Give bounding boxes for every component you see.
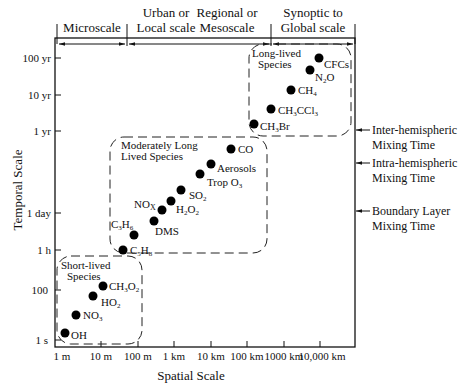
point-so2 (177, 186, 186, 195)
y-axis: 100 yr 10 yr 1 yr 1 day 1 h 100 1 s Temp… (10, 52, 61, 346)
boundary-layer-line2: Mixing Time (372, 219, 435, 233)
label-oh: OH (71, 329, 87, 341)
x-tick-10000km: 10,000 km (298, 350, 346, 362)
label-ch3ccl3: CH3CCl3 (278, 104, 319, 118)
long-lived-title-line2: Species (258, 58, 292, 70)
y-axis-label: Temporal Scale (10, 149, 25, 230)
intra-hemispheric-line2: Mixing Time (372, 171, 435, 185)
mixing-annotations: Inter-hemispheric Mixing Time Intra-hemi… (356, 123, 457, 233)
band-microscale: Microscale (63, 20, 121, 35)
point-ch3ccl3 (267, 105, 276, 114)
label-n2o: N2O (315, 71, 334, 85)
point-co (227, 145, 236, 154)
point-oh (61, 329, 70, 338)
point-trop-o3 (196, 170, 205, 179)
band-regional-line2: Mesoscale (200, 20, 255, 35)
point-ch4 (287, 86, 296, 95)
point-no3 (72, 311, 81, 320)
short-lived-points: CH3O2 HO2 NO3 OH (61, 280, 140, 341)
point-c5h8 (119, 246, 128, 255)
x-tick-1km: 1 km (163, 350, 186, 362)
label-trop-o3: Trop O3 (207, 176, 243, 190)
label-no3: NO3 (83, 309, 103, 323)
label-c3h6: C3H6 (111, 218, 134, 232)
band-urban-line1: Urban or (143, 5, 190, 20)
label-ho2: HO2 (101, 296, 121, 310)
inter-hemispheric-line1: Inter-hemispheric (372, 123, 457, 137)
label-so2: SO2 (189, 189, 207, 203)
point-h2o2 (167, 197, 176, 206)
scale-bands: Microscale Urban or Local scale Regional… (57, 5, 355, 46)
y-tick-10yr: 10 yr (28, 89, 51, 101)
y-tick-1day: 1 day (27, 207, 52, 219)
inter-hemispheric-line2: Mixing Time (372, 138, 435, 152)
label-ch3br: CH3Br (260, 120, 290, 134)
label-h2o2: H2O2 (176, 203, 199, 217)
y-tick-1s: 1 s (35, 334, 48, 346)
point-nox (158, 206, 167, 215)
intra-hemispheric-line1: Intra-hemispheric (372, 156, 457, 170)
band-urban-line2: Local scale (137, 20, 196, 35)
y-tick-100: 100 (32, 284, 49, 296)
label-c5h8: C5H8 (130, 244, 153, 258)
label-dms: DMS (155, 225, 179, 237)
point-cfcs (315, 54, 324, 63)
point-ho2 (89, 292, 98, 301)
scale-diagram: Microscale Urban or Local scale Regional… (0, 0, 472, 386)
point-aerosols (207, 160, 216, 169)
label-ch4: CH4 (298, 84, 317, 98)
label-aerosols: Aerosols (217, 162, 256, 174)
y-tick-1yr: 1 yr (34, 125, 52, 137)
y-tick-1h: 1 h (37, 244, 51, 256)
x-tick-10m: 10 m (90, 350, 113, 362)
point-ch3o2 (99, 282, 108, 291)
short-lived-title-line2: Species (67, 270, 101, 282)
x-tick-100km: 100 km (230, 350, 264, 362)
x-axis-label: Spatial Scale (157, 368, 225, 383)
point-ch3br (250, 120, 259, 129)
x-tick-1m: 1 m (54, 350, 71, 362)
point-n2o (306, 66, 315, 75)
label-cfcs: CFCs (324, 58, 349, 70)
y-tick-100yr: 100 yr (23, 52, 52, 64)
band-regional-line1: Regional or (196, 5, 258, 20)
boundary-layer-line1: Boundary Layer (372, 204, 450, 218)
x-tick-10km: 10 km (197, 350, 225, 362)
band-synoptic-line2: Global scale (281, 20, 346, 35)
band-synoptic-line1: Synoptic to (283, 5, 343, 20)
label-nox: NOX (134, 198, 156, 212)
label-co: CO (238, 143, 253, 155)
label-ch3o2: CH3O2 (109, 280, 140, 294)
x-tick-100m: 100 m (124, 350, 152, 362)
moderate-title-line2: Lived Species (121, 150, 183, 162)
